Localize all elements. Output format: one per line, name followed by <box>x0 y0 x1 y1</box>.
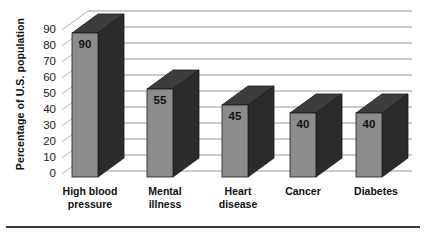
bar-cancer <box>290 94 342 177</box>
y-tick-label: 70 <box>34 56 56 68</box>
x-axis-label-cancer: Cancer <box>274 185 332 198</box>
x-label-line: Diabetes <box>344 185 408 198</box>
bar-mental-illness <box>147 70 199 177</box>
y-tick-label: 40 <box>34 104 56 116</box>
bar-value-label: 55 <box>147 94 173 106</box>
bar-chart-figure: Percentage of U.S. population 90 80 70 6… <box>0 0 427 236</box>
x-axis-label-diabetes: Diabetes <box>344 185 408 198</box>
bar-heart-disease <box>222 86 274 177</box>
x-label-line: Mental <box>135 185 195 198</box>
y-tick-label: 0 <box>34 168 56 180</box>
bottom-divider <box>6 226 420 228</box>
x-label-line: disease <box>208 198 268 211</box>
y-tick-label: 90 <box>34 24 56 36</box>
y-tick-label: 80 <box>34 40 56 52</box>
x-label-line: Heart <box>208 185 268 198</box>
x-label-line: High blood <box>54 185 126 198</box>
y-axis-ticks: 90 80 70 60 50 40 30 20 10 0 <box>28 0 56 236</box>
y-axis-title: Percentage of U.S. population <box>14 4 26 184</box>
y-tick-label: 10 <box>34 152 56 164</box>
y-tick-label: 30 <box>34 120 56 132</box>
y-tick-label: 60 <box>34 72 56 84</box>
x-label-line: illness <box>135 198 195 211</box>
x-axis-label-heart-disease: Heart disease <box>208 185 268 210</box>
y-tick-label: 50 <box>34 88 56 100</box>
y-tick-label: 20 <box>34 136 56 148</box>
x-axis-label-mental-illness: Mental illness <box>135 185 195 210</box>
bar-value-label: 45 <box>222 110 248 122</box>
x-label-line: pressure <box>54 198 126 211</box>
x-label-line: Cancer <box>274 185 332 198</box>
x-axis-label-high-blood-pressure: High blood pressure <box>54 185 126 210</box>
bar-value-label: 40 <box>356 118 382 130</box>
bar-value-label: 90 <box>72 38 98 50</box>
bar-value-label: 40 <box>290 118 316 130</box>
bar-diabetes <box>356 94 408 177</box>
